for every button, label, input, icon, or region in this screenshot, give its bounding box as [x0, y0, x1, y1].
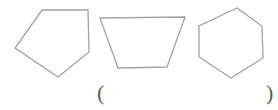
hexagon-shape — [199, 8, 263, 78]
answer-close-paren: ) — [266, 82, 273, 104]
answer-blank-space — [108, 84, 264, 106]
trapezoid-shape — [100, 17, 185, 68]
worksheet-page: ( ) — [0, 0, 278, 110]
answer-open-paren: ( — [97, 82, 104, 104]
pentagon-shape — [15, 10, 89, 77]
